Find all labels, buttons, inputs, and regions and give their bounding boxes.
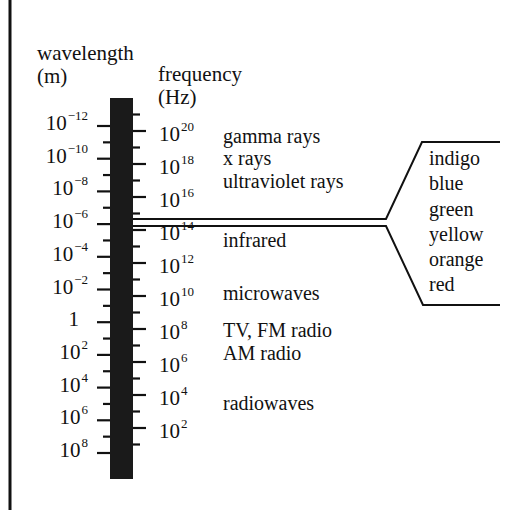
band-ultraviolet: ultraviolet rays — [223, 170, 344, 192]
frequency-label: 104 — [159, 387, 188, 409]
visible-color-yellow: yellow — [429, 222, 483, 247]
band-x-rays: x rays — [223, 147, 271, 169]
visible-color-orange: orange — [429, 247, 483, 272]
wavelength-label: 10−8 — [52, 177, 88, 199]
frequency-label: 1018 — [159, 156, 194, 178]
visible-color-green: green — [429, 197, 473, 222]
wavelength-label: 102 — [60, 341, 89, 363]
frequency-label: 106 — [159, 354, 188, 376]
band-microwaves: microwaves — [223, 282, 320, 304]
visible-color-indigo: indigo — [429, 146, 480, 171]
band-tv-fm-radio: TV, FM radio — [223, 319, 332, 341]
spectrum-bar — [110, 98, 133, 479]
wavelength-label: 108 — [60, 439, 89, 461]
wavelength-label: 104 — [60, 374, 89, 396]
frequency-title: frequency — [158, 63, 242, 85]
band-gamma-rays: gamma rays — [223, 125, 320, 147]
wavelength-title: wavelength — [37, 42, 134, 64]
frequency-label: 108 — [159, 321, 188, 343]
band-infrared: infrared — [223, 229, 286, 251]
visible-color-red: red — [429, 272, 455, 297]
band-am-radio: AM radio — [223, 342, 301, 364]
wavelength-label: 106 — [60, 406, 89, 428]
wavelength-label: 10−12 — [46, 112, 88, 134]
visible-color-blue: blue — [429, 171, 463, 196]
frequency-label: 1016 — [159, 189, 194, 211]
wavelength-unit: (m) — [37, 65, 67, 87]
wavelength-label: 10−4 — [52, 243, 88, 265]
frequency-label: 1010 — [159, 288, 194, 310]
wavelength-label: 10−6 — [52, 210, 88, 232]
band-radiowaves: radiowaves — [223, 392, 314, 414]
frequency-label: 1020 — [159, 123, 194, 145]
wavelength-label: 10−10 — [46, 145, 88, 167]
wavelength-ticks — [97, 126, 110, 453]
frequency-unit: (Hz) — [158, 86, 196, 108]
wavelength-label: 10−2 — [52, 276, 88, 298]
frequency-ticks — [133, 115, 146, 445]
wavelength-label: 1 — [69, 308, 81, 330]
frequency-label: 102 — [159, 420, 188, 442]
frequency-label: 1012 — [159, 255, 194, 277]
frequency-label: 1014 — [159, 222, 194, 244]
